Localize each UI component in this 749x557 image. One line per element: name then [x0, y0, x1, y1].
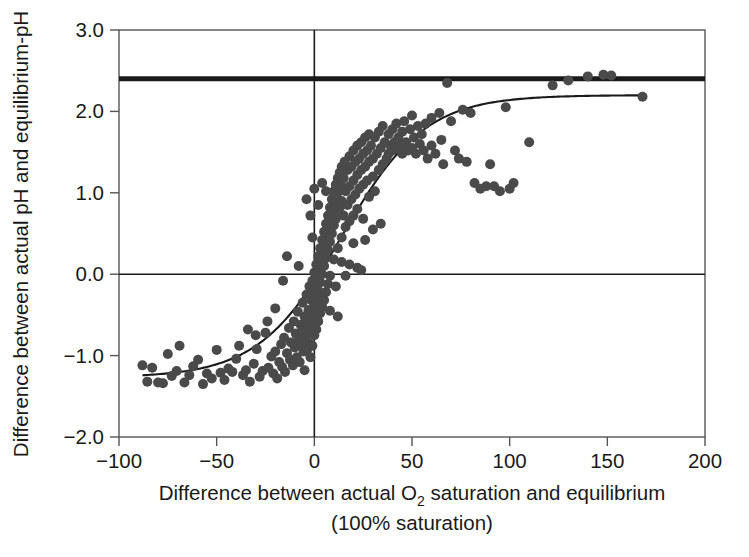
x-tick-label: −100 [96, 449, 142, 472]
data-point [280, 367, 290, 377]
data-point [313, 200, 323, 210]
data-point [147, 363, 157, 373]
data-point [172, 366, 182, 376]
data-point [462, 157, 472, 167]
data-point [142, 377, 152, 387]
data-point [270, 303, 280, 313]
x-tick-label: 100 [493, 449, 527, 472]
data-point [370, 186, 380, 196]
x-axis-title-line1: Difference between actual O2 saturation … [159, 481, 666, 509]
x-tick-label: 200 [688, 449, 722, 472]
data-point [524, 137, 534, 147]
x-tick-label: 50 [401, 449, 424, 472]
data-point [241, 365, 251, 375]
data-point [231, 354, 241, 364]
data-point [302, 194, 312, 204]
data-point [331, 281, 341, 291]
data-point [175, 341, 185, 351]
x-tick-label: −50 [199, 449, 234, 472]
data-point [305, 211, 315, 221]
scatter-plot: −100−50050100150200 −2.0−1.00.01.02.03.0… [0, 0, 749, 557]
x-tick-label: 0 [309, 449, 320, 472]
data-point [261, 328, 271, 338]
data-point [219, 375, 229, 385]
y-axis-tick-labels: −2.0−1.00.01.02.03.0 [64, 18, 104, 448]
data-point [227, 367, 237, 377]
data-point [307, 341, 317, 351]
data-point [417, 129, 427, 139]
data-point [436, 135, 446, 145]
data-point [193, 355, 203, 365]
data-point [305, 352, 315, 362]
y-tick-label: −1.0 [64, 344, 104, 367]
data-point [606, 71, 616, 81]
data-point [563, 75, 573, 85]
x-axis-title-line2: (100% saturation) [331, 511, 493, 534]
data-point [509, 178, 519, 188]
data-point [282, 251, 292, 261]
data-point [309, 184, 319, 194]
y-tick-label: 3.0 [76, 18, 105, 41]
data-point [442, 78, 452, 88]
data-point [376, 219, 386, 229]
x-tick-label: 150 [590, 449, 624, 472]
figure-container: −100−50050100150200 −2.0−1.00.01.02.03.0… [0, 0, 749, 557]
data-point [158, 378, 168, 388]
x-axis-tick-labels: −100−50050100150200 [96, 449, 722, 472]
data-point [360, 235, 370, 245]
data-point [407, 110, 417, 120]
data-point [262, 316, 272, 326]
data-point [495, 186, 505, 196]
data-point [163, 349, 173, 359]
data-point [430, 149, 440, 159]
data-point [378, 121, 388, 131]
data-point [337, 233, 347, 243]
y-tick-label: 1.0 [76, 181, 105, 204]
data-point [333, 312, 343, 322]
data-point [466, 108, 476, 118]
data-point [583, 71, 593, 81]
y-axis-ticks [110, 30, 119, 437]
y-tick-label: 2.0 [76, 99, 105, 122]
data-point [438, 159, 448, 169]
data-point [207, 373, 217, 383]
data-point [294, 261, 304, 271]
x-axis-title-part1: Difference between actual O [159, 481, 417, 504]
data-point [307, 233, 317, 243]
data-point [137, 360, 147, 370]
data-point [352, 204, 362, 214]
data-point [212, 345, 222, 355]
data-point [348, 238, 358, 248]
data-point [243, 325, 253, 335]
data-point [325, 271, 335, 281]
data-point [356, 265, 366, 275]
data-point [358, 214, 368, 224]
data-point [245, 377, 255, 387]
data-point [184, 370, 194, 380]
data-point [341, 271, 351, 281]
data-point [249, 359, 259, 369]
data-point [501, 102, 511, 112]
data-point [637, 92, 647, 102]
data-point [252, 344, 262, 354]
y-axis-title: Difference between actual pH and equilib… [9, 11, 32, 457]
x-axis-title-subscript: 2 [417, 493, 425, 509]
data-point [485, 159, 495, 169]
data-point [548, 80, 558, 90]
data-point [198, 379, 208, 389]
x-axis-title-part2: saturation and equilibrium [425, 481, 665, 504]
data-point [333, 243, 343, 253]
y-tick-label: 0.0 [76, 262, 105, 285]
data-point [434, 108, 444, 118]
data-point [278, 276, 288, 286]
data-point [446, 116, 456, 126]
y-tick-label: −2.0 [64, 425, 104, 448]
data-point [300, 365, 310, 375]
data-point [234, 341, 244, 351]
data-point [272, 373, 282, 383]
x-axis-ticks [119, 437, 705, 446]
